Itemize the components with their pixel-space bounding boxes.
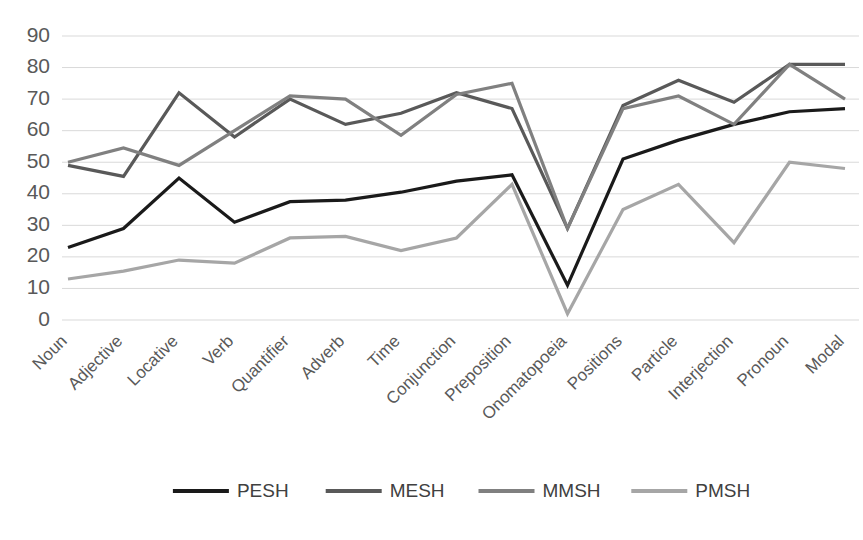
y-axis-tick-label: 60 [27,117,50,140]
legend-label-mmsh: MMSH [543,480,601,501]
y-axis-tick-label: 90 [27,23,50,46]
y-axis-tick-label: 20 [27,243,50,266]
series-line-pmsh [68,162,845,313]
legend-label-pesh: PESH [237,480,289,501]
chart-legend: PESHMESHMMSHPMSH [173,480,750,501]
y-axis-tick-label: 50 [27,149,50,172]
y-axis-tick-label: 30 [27,212,50,235]
x-axis-tick-label: Quantifier [227,331,293,397]
x-axis-tick-label: Adverb [297,331,349,383]
x-axis-tick-label: Locative [124,331,182,389]
series-lines [68,64,845,313]
x-axis-tick-label: Verb [199,331,237,369]
line-chart: 0102030405060708090 NounAdjectiveLocativ… [0,0,863,540]
x-axis-tick-label: Modal [802,331,848,377]
series-line-mmsh [68,64,845,228]
legend-label-pmsh: PMSH [695,480,750,501]
y-axis-tick-label: 0 [38,307,50,330]
y-axis-tick-label: 40 [27,180,50,203]
y-axis-tick-label: 80 [27,54,50,77]
y-axis-tick-label: 10 [27,275,50,298]
x-axis-tick-label: Time [364,331,404,371]
legend-label-mesh: MESH [390,480,445,501]
x-axis-tick-label: Adjective [64,331,126,393]
chart-page: 0102030405060708090 NounAdjectiveLocativ… [0,0,863,540]
x-axis-tick-label: Positions [564,331,626,393]
x-axis-tick-label: Noun [29,331,71,373]
x-axis-tick-label: Pronoun [733,331,792,390]
x-axis-tick-label: Particle [628,331,682,385]
y-axis-tick-label: 70 [27,86,50,109]
x-axis-tick-labels: NounAdjectiveLocativeVerbQuantifierAdver… [29,331,848,424]
series-line-mesh [68,64,845,228]
y-axis-tick-labels: 0102030405060708090 [27,23,50,330]
